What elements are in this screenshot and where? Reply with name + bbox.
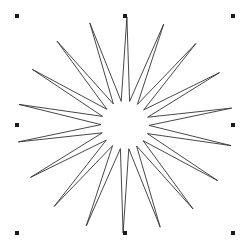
resize-handle-top-left[interactable] [15, 14, 19, 18]
resize-handle-bottom-left[interactable] [15, 231, 19, 235]
resize-handle-top-right[interactable] [231, 14, 235, 18]
resize-handle-middle-right[interactable] [231, 123, 235, 127]
resize-handle-bottom-right[interactable] [231, 231, 235, 235]
drawing-canvas[interactable] [0, 0, 250, 249]
star-shape[interactable] [18, 17, 231, 233]
resize-handle-middle-left[interactable] [15, 123, 19, 127]
resize-handle-top-center[interactable] [123, 14, 127, 18]
resize-handle-bottom-center[interactable] [123, 231, 127, 235]
